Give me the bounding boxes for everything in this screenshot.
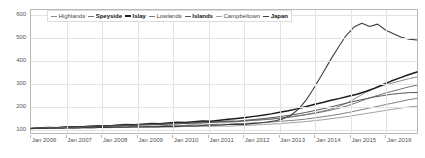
gridline-vertical [244, 10, 245, 133]
chart-legend: HighlandsSpeysideIslayLowlandsIslandsCam… [47, 10, 292, 22]
legend-label: Islands [192, 12, 213, 20]
legend-swatch-icon [51, 16, 57, 17]
legend-item[interactable]: Japan [263, 12, 288, 20]
legend-item[interactable]: Highlands [51, 12, 85, 20]
x-tick-label: Jan 2014 [316, 137, 341, 143]
series-line [31, 23, 417, 128]
x-tick-label: Jan 2009 [138, 137, 163, 143]
legend-swatch-icon [185, 16, 191, 17]
gridline-vertical [173, 10, 174, 133]
x-tick-label: Jan 2007 [67, 137, 92, 143]
y-tick-label: 500 [16, 34, 26, 40]
y-tick-label: 600 [16, 11, 26, 17]
legend-label: Islay [133, 12, 146, 20]
gridline-vertical [138, 10, 139, 133]
legend-item[interactable]: Lowlands [149, 12, 182, 20]
x-tick-label: Jan 2008 [103, 137, 128, 143]
plot-area [30, 9, 418, 134]
gridline-vertical [280, 10, 281, 133]
legend-label: Japan [271, 12, 288, 20]
y-tick-label: 200 [16, 103, 26, 109]
x-tick-label: Jan 2010 [174, 137, 199, 143]
gridline-horizontal [31, 107, 417, 108]
x-tick-mark [208, 135, 209, 138]
y-axis: 100200300400500600 [0, 9, 29, 134]
gridline-vertical [102, 10, 103, 133]
series-layer [31, 10, 417, 133]
legend-item[interactable]: Speyside [88, 12, 122, 20]
x-tick-label: Jan 2013 [280, 137, 305, 143]
gridline-horizontal [31, 130, 417, 131]
y-tick-label: 400 [16, 57, 26, 63]
legend-label: Speyside [96, 12, 122, 20]
x-tick-label: Jan 2012 [245, 137, 270, 143]
legend-label: Highlands [59, 12, 86, 20]
y-tick-label: 300 [16, 80, 26, 86]
x-axis: Jan 2006Jan 2007Jan 2008Jan 2009Jan 2010… [30, 135, 418, 155]
legend-item[interactable]: Campbeltown [216, 12, 260, 20]
gridline-vertical [351, 10, 352, 133]
gridline-horizontal [31, 84, 417, 85]
series-line [31, 98, 417, 128]
x-tick-label: Jan 2016 [387, 137, 412, 143]
legend-swatch-icon [88, 16, 94, 17]
legend-label: Lowlands [156, 12, 181, 20]
whisky-index-line-chart: 100200300400500600 Jan 2006Jan 2007Jan 2… [0, 0, 425, 158]
x-tick-label: Jan 2006 [32, 137, 57, 143]
gridline-vertical [315, 10, 316, 133]
gridline-horizontal [31, 61, 417, 62]
legend-swatch-icon [149, 16, 155, 17]
x-tick-label: Jan 2015 [351, 137, 376, 143]
legend-item[interactable]: Islay [125, 12, 146, 20]
legend-swatch-icon [125, 15, 131, 17]
legend-label: Campbeltown [223, 12, 260, 20]
gridline-horizontal [31, 38, 417, 39]
gridline-vertical [67, 10, 68, 133]
legend-swatch-icon [263, 16, 269, 17]
x-tick-label: Jan 2011 [210, 137, 234, 143]
legend-item[interactable]: Islands [185, 12, 213, 20]
gridline-vertical [209, 10, 210, 133]
legend-swatch-icon [216, 16, 222, 17]
gridline-vertical [386, 10, 387, 133]
y-tick-label: 100 [16, 126, 26, 132]
